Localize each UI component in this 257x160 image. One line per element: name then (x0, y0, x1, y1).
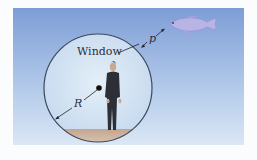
diagram-canvas (0, 0, 257, 160)
p-label: p (149, 33, 156, 44)
R-label: R (74, 98, 82, 109)
window-label: Window (77, 46, 122, 57)
